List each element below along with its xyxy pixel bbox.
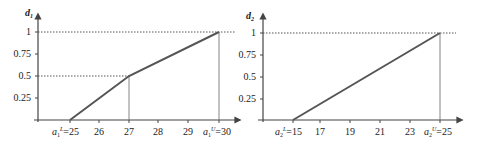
- series-d2: [293, 33, 440, 120]
- ytick-05: 0.5: [19, 70, 32, 81]
- xtick-a2U: a2U=25: [424, 126, 452, 138]
- ytick-075: 0.75: [239, 49, 257, 60]
- xtick-29: 29: [183, 126, 193, 137]
- xtick-a1L: a1L=25: [52, 126, 79, 138]
- xtick-23: 23: [405, 126, 415, 137]
- y-axis-title: d2: [246, 10, 254, 22]
- chart-d2: 1 0.75 0.5 0.25 d2 a2L=15 17 19 21 23 a2…: [239, 10, 461, 138]
- xtick-26: 26: [94, 126, 104, 137]
- ytick-1: 1: [251, 27, 256, 38]
- ytick-05: 0.5: [244, 71, 257, 82]
- xtick-28: 28: [153, 126, 163, 137]
- xtick-17: 17: [315, 126, 325, 137]
- y-axis-title: d1: [25, 7, 33, 19]
- xtick-27: 27: [124, 126, 134, 137]
- chart-figure: 1 0.75 0.5 0.25 d1 a1L=25 26 27 28 29 a1…: [0, 0, 481, 144]
- xtick-a2L: a2L=15: [275, 126, 302, 138]
- xtick-a1U: a1U=30: [203, 126, 231, 138]
- xtick-19: 19: [345, 126, 355, 137]
- ytick-1: 1: [26, 26, 31, 37]
- chart-d1: 1 0.75 0.5 0.25 d1 a1L=25 26 27 28 29 a1…: [14, 7, 239, 138]
- ytick-075: 0.75: [14, 48, 32, 59]
- ytick-025: 0.25: [14, 92, 32, 103]
- xtick-21: 21: [375, 126, 385, 137]
- ytick-025: 0.25: [239, 93, 257, 104]
